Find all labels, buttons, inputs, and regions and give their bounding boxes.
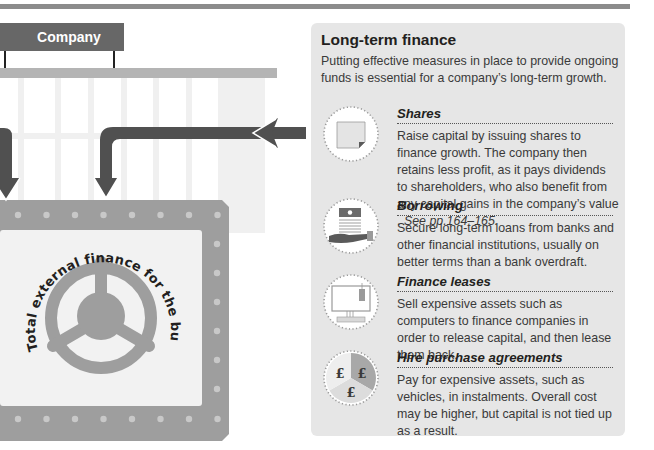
pound-symbol: £ — [346, 385, 355, 400]
left-feed-arrow-shaft — [0, 128, 12, 178]
safe-rivet — [72, 416, 78, 422]
safe-rivet — [43, 212, 49, 218]
panel-title: Long-term finance — [321, 31, 456, 49]
safe-rivet — [72, 212, 78, 218]
item-heading: Borrowing — [397, 198, 613, 216]
safe: Total external finance for the business — [0, 0, 229, 441]
safe-rivet — [100, 416, 106, 422]
safe-rivet — [214, 241, 220, 247]
safe-rivet — [129, 416, 135, 422]
safe-rivet — [214, 386, 220, 392]
item-heading: Shares — [397, 106, 613, 124]
safe-rivet — [214, 416, 220, 422]
safe-rivet — [214, 299, 220, 305]
main-arrow-shaft — [100, 127, 306, 183]
safe-rivet — [214, 270, 220, 276]
item-heading: Finance leases — [397, 274, 613, 292]
safe-rivet — [43, 416, 49, 422]
left-feed-arrow-head — [0, 178, 20, 200]
finance-flow-diagram: Total external finance for the business — [0, 0, 310, 450]
item-description: Pay for expensive assets, such as vehicl… — [397, 372, 619, 440]
item-description: Secure long-term loans from banks and ot… — [397, 220, 619, 271]
safe-rivet — [15, 416, 21, 422]
safe-rivet — [129, 212, 135, 218]
flow-arrows — [0, 118, 306, 200]
computer-with-price-tag-icon — [323, 274, 379, 330]
safe-rivet — [15, 212, 21, 218]
safe-rivet — [214, 357, 220, 363]
safe-wheel-hub — [77, 292, 125, 340]
safe-rivet — [186, 212, 192, 218]
pound-pie-icon: £ £ £ — [323, 350, 379, 406]
hand-holding-banknotes-icon — [323, 198, 379, 254]
pound-symbol: £ — [357, 366, 366, 381]
long-term-finance-panel: Long-term finance Putting effective meas… — [311, 23, 625, 436]
pound-symbol: £ — [335, 366, 344, 381]
safe-rivet — [157, 212, 163, 218]
safe-rivet — [100, 212, 106, 218]
safe-rivet — [157, 416, 163, 422]
safe-rivet — [214, 328, 220, 334]
item-heading: Hire purchase agreements — [397, 350, 613, 368]
panel-intro: Putting effective measures in place to p… — [321, 53, 621, 87]
share-certificate-icon — [323, 106, 379, 162]
main-arrow-head-down — [94, 178, 118, 198]
safe-rivet — [214, 212, 220, 218]
safe-rivet — [186, 416, 192, 422]
